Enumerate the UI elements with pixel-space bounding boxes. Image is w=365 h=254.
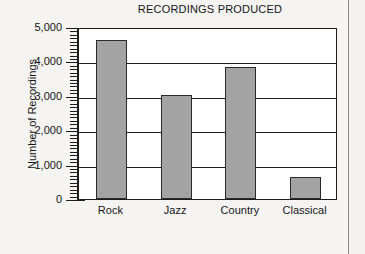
y-tick-label-4000: 4,000 <box>18 55 62 67</box>
y-tick-label-2000: 2,000 <box>18 124 62 136</box>
y-tick-label-3000: 3,000 <box>18 90 62 102</box>
bar-rock <box>96 40 127 199</box>
bar-jazz <box>161 95 192 199</box>
y-tick-label-0: 0 <box>18 193 62 205</box>
y-tick-label-5000: 5,000 <box>18 21 62 33</box>
bar-chart-figure: RECORDINGS PRODUCED Number of Recordings… <box>0 0 365 254</box>
plot-area <box>78 28 337 200</box>
x-axis-tick-labels: RockJazzCountryClassical <box>78 204 337 224</box>
bar-classical <box>290 177 321 199</box>
chart-title: RECORDINGS PRODUCED <box>85 3 335 15</box>
x-tick-label-classical: Classical <box>265 204 345 216</box>
y-minor-tick-0 <box>70 200 85 201</box>
y-axis-tick-labels: 01,0002,0003,0004,0005,000 <box>12 28 62 200</box>
bar-country <box>225 67 256 199</box>
y-tick-label-1000: 1,000 <box>18 159 62 171</box>
